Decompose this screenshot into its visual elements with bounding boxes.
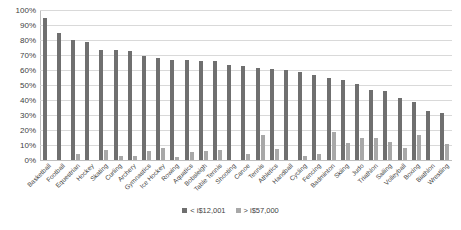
bar <box>142 56 146 160</box>
bar-group <box>338 10 352 160</box>
bar <box>128 51 132 160</box>
bar <box>341 80 345 160</box>
bar <box>374 138 378 161</box>
bar <box>388 142 392 160</box>
legend-label: < i$12,001 <box>190 206 225 215</box>
y-axis-tick-label: 0% <box>24 156 36 165</box>
bar <box>119 156 123 160</box>
bar <box>199 61 203 160</box>
bar <box>190 152 194 160</box>
bar <box>71 40 75 160</box>
bar <box>261 135 265 160</box>
bar-series-container <box>40 10 452 160</box>
chart-legend: < i$12,001> i$57,000 <box>0 206 461 215</box>
bar <box>303 156 307 160</box>
y-axis-tick-label: 90% <box>20 21 36 30</box>
plot-area <box>40 10 452 160</box>
bar <box>170 60 174 161</box>
legend-item[interactable]: < i$12,001 <box>182 206 225 215</box>
bar-group <box>310 10 324 160</box>
bar-group <box>111 10 125 160</box>
bar <box>85 42 89 160</box>
bar <box>275 149 279 160</box>
y-axis-tick-label: 40% <box>20 96 36 105</box>
bar <box>412 102 416 160</box>
bar-group <box>210 10 224 160</box>
bar <box>175 157 179 160</box>
bar <box>332 132 336 161</box>
bar-group <box>324 10 338 160</box>
legend-item[interactable]: > i$57,000 <box>236 206 279 215</box>
bar-group <box>97 10 111 160</box>
legend-swatch-icon <box>182 208 187 213</box>
bar <box>284 70 288 160</box>
bar-group <box>168 10 182 160</box>
legend-swatch-icon <box>236 208 241 213</box>
bar-group <box>139 10 153 160</box>
bar <box>440 113 444 160</box>
bar <box>270 69 274 160</box>
bar-group <box>367 10 381 160</box>
bar-group <box>352 10 366 160</box>
bar <box>114 50 118 160</box>
bar <box>256 68 260 160</box>
bar-group <box>239 10 253 160</box>
bar-group <box>409 10 423 160</box>
bar <box>147 151 151 160</box>
y-axis-tick-label: 80% <box>20 36 36 45</box>
legend-label: > i$57,000 <box>244 206 279 215</box>
bar <box>161 148 165 160</box>
y-axis-tick-label: 50% <box>20 81 36 90</box>
bar <box>246 154 250 160</box>
bar <box>398 98 402 160</box>
y-axis-tick-label: 60% <box>20 66 36 75</box>
bar <box>185 60 189 160</box>
y-axis-tick-label: 20% <box>20 126 36 135</box>
bar-group <box>381 10 395 160</box>
y-axis-tick-label: 30% <box>20 111 36 120</box>
bar <box>445 144 449 161</box>
bar <box>327 78 331 161</box>
bar-group <box>196 10 210 160</box>
bar <box>76 154 80 160</box>
bar <box>218 150 222 161</box>
bar <box>312 75 316 160</box>
bar-group <box>225 10 239 160</box>
y-axis-tick-label: 70% <box>20 51 36 60</box>
y-axis-tick-label: 100% <box>16 6 36 15</box>
bar <box>403 148 407 160</box>
bar <box>227 65 231 160</box>
y-axis-tick-label: 10% <box>20 141 36 150</box>
bar-group <box>40 10 54 160</box>
bar <box>133 156 137 161</box>
bar-group <box>267 10 281 160</box>
bar <box>346 143 350 160</box>
bar <box>204 151 208 160</box>
bar-group <box>296 10 310 160</box>
bar <box>104 150 108 160</box>
bar <box>360 138 364 161</box>
bar <box>417 135 421 160</box>
y-axis-labels: 100%90%80%70%60%50%40%30%20%10%0% <box>0 10 36 160</box>
bar-chart: 100%90%80%70%60%50%40%30%20%10%0% Basket… <box>0 0 461 230</box>
bar-group <box>54 10 68 160</box>
bar-group <box>154 10 168 160</box>
bar <box>156 58 160 160</box>
bar-group <box>182 10 196 160</box>
bar-group <box>281 10 295 160</box>
bar <box>99 50 103 160</box>
bar-group <box>395 10 409 160</box>
bar <box>369 90 373 161</box>
bar <box>57 33 61 160</box>
bar <box>383 91 387 160</box>
bar <box>43 18 47 160</box>
bar <box>241 66 245 160</box>
bar-group <box>125 10 139 160</box>
bar <box>317 154 321 160</box>
bar-group <box>83 10 97 160</box>
bar <box>298 72 302 161</box>
bar-group <box>438 10 452 160</box>
bar <box>355 84 359 161</box>
bar-group <box>423 10 437 160</box>
bar <box>213 61 217 160</box>
